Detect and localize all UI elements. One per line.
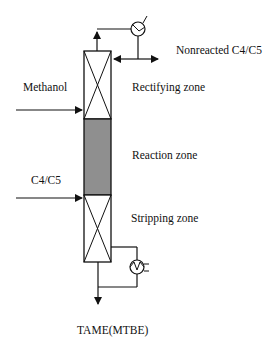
- c4c5-label: C4/C5: [31, 174, 61, 186]
- nonreacted-label: Nonreacted C4/C5: [176, 44, 262, 56]
- reactive-distillation-diagram: Nonreacted C4/C5 Methanol Rectifying zon…: [0, 0, 280, 350]
- reflux-line: [114, 36, 158, 59]
- reaction-zone-label: Reaction zone: [132, 149, 197, 161]
- reaction-section: [84, 119, 111, 195]
- stripping-zone-label: Stripping zone: [131, 212, 198, 224]
- stripping-section: [84, 195, 111, 262]
- overhead-line: [97, 29, 131, 51]
- rectifying-section: [84, 51, 111, 119]
- condenser-icon: [131, 16, 147, 36]
- rectifying-zone-label: Rectifying zone: [132, 81, 205, 93]
- product-label: TAME(MTBE): [77, 324, 148, 336]
- reboiler-icon: [130, 260, 149, 274]
- methanol-label: Methanol: [23, 81, 67, 93]
